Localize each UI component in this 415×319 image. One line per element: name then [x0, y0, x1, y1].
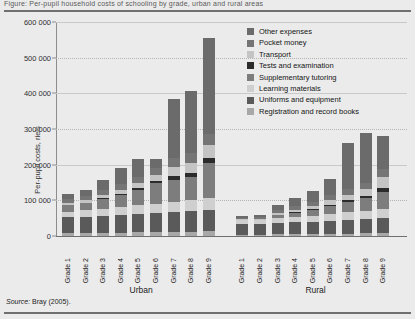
legend-item[interactable]: Supplementary tutoring: [247, 72, 359, 83]
bar-segment: [168, 158, 180, 167]
legend-swatch-icon: [247, 85, 254, 92]
bar-rural-grade-6: [324, 179, 336, 236]
bar-segment: [324, 179, 336, 195]
bar-segment: [150, 168, 162, 175]
legend-item-label: Pocket money: [259, 39, 307, 47]
y-axis-tick-label: 100 000: [24, 196, 51, 205]
source-note: Source: Bray (2005).: [6, 298, 71, 305]
legend-item[interactable]: Pocket money: [247, 37, 359, 48]
bar-segment: [236, 235, 248, 236]
bar-segment: [132, 205, 144, 214]
bar-segment: [324, 214, 336, 221]
bar-segment: [185, 211, 197, 232]
x-axis-category-label: Grade 1: [64, 258, 71, 283]
group-label-rural: Rural: [236, 285, 394, 295]
group-label-urban: Urban: [62, 285, 220, 295]
bar-segment: [150, 232, 162, 236]
figure-container: Figure: Per-pupil household costs of sch…: [0, 0, 415, 319]
bar-segment: [360, 233, 372, 236]
bar-segment: [80, 233, 92, 236]
legend-swatch-icon: [247, 62, 254, 69]
y-axis-tick-label: 400 000: [24, 89, 51, 98]
bar-segment: [203, 163, 215, 199]
bar-segment: [168, 212, 180, 232]
bar-rural-grade-3: [272, 205, 284, 236]
bar-rural-grade-2: [254, 215, 266, 236]
source-text: Bray (2005).: [32, 298, 71, 305]
gridline: [56, 165, 407, 166]
bar-segment: [97, 199, 109, 208]
bar-segment: [185, 177, 197, 201]
bar-segment: [272, 234, 284, 236]
legend: Other expensesPocket moneyTransportTests…: [247, 26, 359, 117]
bar-segment: [377, 136, 389, 169]
bar-segment: [342, 212, 354, 219]
bar-urban-grade-4: [115, 168, 127, 236]
legend-swatch-icon: [247, 40, 254, 47]
bar-segment: [377, 218, 389, 233]
bar-segment: [360, 133, 372, 183]
bar-segment: [150, 159, 162, 168]
y-axis-tick-label: 500 000: [24, 53, 51, 62]
legend-swatch-icon: [247, 51, 254, 58]
legend-item[interactable]: Other expenses: [247, 26, 359, 37]
bar-segment: [115, 168, 127, 184]
bar-rural-grade-9: [377, 136, 389, 236]
legend-item[interactable]: Registration and record books: [247, 106, 359, 117]
bar-segment: [132, 190, 144, 206]
bar-segment: [185, 153, 197, 162]
bar-segment: [132, 232, 144, 236]
bar-segment: [132, 214, 144, 233]
bar-segment: [150, 213, 162, 232]
bar-urban-grade-5: [132, 159, 144, 236]
bar-segment: [324, 234, 336, 236]
legend-item[interactable]: Transport: [247, 49, 359, 60]
bar-rural-grade-5: [307, 191, 319, 236]
legend-item-label: Learning materials: [259, 85, 321, 93]
bar-segment: [203, 231, 215, 236]
bar-segment: [360, 189, 372, 196]
x-axis-category-label: Grade 2: [82, 258, 89, 283]
legend-item-label: Registration and record books: [259, 108, 359, 116]
bar-segment: [377, 169, 389, 177]
bar-segment: [115, 215, 127, 233]
legend-item[interactable]: Learning materials: [247, 83, 359, 94]
bar-segment: [254, 235, 266, 236]
bar-segment: [342, 202, 354, 213]
bar-segment: [97, 209, 109, 216]
bar-segment: [132, 159, 144, 177]
bar-segment: [377, 192, 389, 209]
bar-urban-grade-7: [168, 99, 180, 236]
bar-segment: [377, 233, 389, 236]
bar-segment: [97, 216, 109, 233]
bar-segment: [203, 38, 215, 134]
bar-segment: [150, 183, 162, 204]
legend-item[interactable]: Uniforms and equipment: [247, 94, 359, 105]
bar-segment: [377, 177, 389, 188]
legend-swatch-icon: [247, 28, 254, 35]
bar-segment: [168, 167, 180, 176]
legend-item[interactable]: Tests and examination: [247, 60, 359, 71]
bar-segment: [150, 204, 162, 213]
bar-segment: [360, 211, 372, 219]
bar-rural-grade-7: [342, 143, 354, 236]
x-axis-category-label: Grade 8: [362, 258, 369, 283]
legend-swatch-icon: [247, 108, 254, 115]
bar-segment: [272, 223, 284, 234]
bar-urban-grade-2: [80, 190, 92, 236]
y-axis-tick-mark: [52, 200, 56, 201]
bar-segment: [203, 210, 215, 231]
y-axis-tick-label: 0: [47, 232, 51, 241]
gridline: [56, 22, 407, 23]
legend-item-label: Uniforms and equipment: [259, 96, 341, 104]
bar-segment: [185, 232, 197, 236]
bar-segment: [97, 180, 109, 191]
bar-segment: [203, 145, 215, 158]
bar-segment: [115, 207, 127, 215]
legend-swatch-icon: [247, 74, 254, 81]
bar-urban-grade-6: [150, 159, 162, 236]
bar-segment: [62, 217, 74, 233]
bar-segment: [307, 222, 319, 234]
bar-segment: [289, 222, 301, 234]
x-axis-category-label: Grade 1: [238, 258, 245, 283]
